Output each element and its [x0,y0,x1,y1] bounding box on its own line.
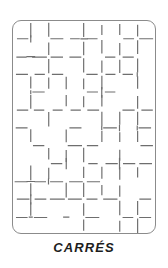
pattern-caption: CARRÉS [0,240,168,255]
pattern-line-group [15,23,154,233]
pattern-frame [12,20,156,234]
pattern-swatch-figure: CARRÉS [0,0,168,268]
squares-pattern-canvas [13,21,155,233]
